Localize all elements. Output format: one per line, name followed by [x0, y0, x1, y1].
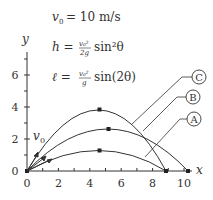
svg-text:ℓ =: ℓ = — [52, 70, 71, 84]
x-axis-label: x — [196, 163, 203, 177]
v0-label: v 0 — [33, 129, 45, 145]
trajectories — [27, 110, 188, 171]
svg-text:= 10 m/s: = 10 m/s — [66, 10, 121, 24]
svg-text:0: 0 — [24, 177, 31, 190]
trajectory-points — [25, 108, 190, 174]
label-a: A — [187, 112, 201, 126]
trajectory-b — [27, 129, 188, 171]
svg-text:8: 8 — [149, 177, 156, 190]
svg-text:sin(2θ): sin(2θ) — [94, 70, 136, 84]
svg-text:h =: h = — [52, 40, 74, 54]
trajectory-diagram: v 0 = 10 m/s h = v₀² 2g sin²θ ℓ = v₀² g … — [0, 0, 213, 200]
svg-text:10: 10 — [177, 177, 191, 190]
svg-text:0: 0 — [40, 136, 45, 145]
svg-text:4: 4 — [12, 101, 19, 114]
y-tick-labels: 0 2 4 6 — [12, 69, 19, 178]
svg-text:v: v — [52, 10, 59, 24]
arrow-head-icon — [34, 152, 38, 157]
y-axis-label: y — [21, 32, 29, 46]
svg-text:C: C — [195, 72, 203, 83]
svg-text:sin²θ: sin²θ — [94, 40, 124, 54]
leader-lines — [132, 77, 192, 157]
x-tick-labels: 0 2 4 6 8 10 — [24, 177, 192, 190]
svg-text:0: 0 — [59, 18, 63, 26]
svg-text:6: 6 — [12, 69, 19, 82]
svg-text:4: 4 — [86, 177, 93, 190]
label-b: B — [186, 90, 200, 104]
svg-text:2: 2 — [55, 177, 62, 190]
svg-text:g: g — [82, 79, 87, 87]
formula-v0: v 0 = 10 m/s — [52, 10, 121, 26]
formula-range: ℓ = v₀² g sin(2θ) — [52, 70, 136, 87]
formula-height: h = v₀² 2g sin²θ — [52, 40, 124, 57]
svg-text:6: 6 — [118, 177, 125, 190]
svg-text:B: B — [189, 92, 196, 103]
svg-text:v₀²: v₀² — [79, 40, 89, 48]
svg-text:2g: 2g — [79, 49, 89, 57]
svg-text:0: 0 — [12, 165, 19, 178]
velocity-arrows — [27, 152, 52, 171]
arrow-head-icon — [47, 159, 52, 163]
svg-text:v: v — [33, 129, 40, 143]
svg-text:A: A — [189, 114, 198, 125]
svg-text:2: 2 — [12, 133, 19, 146]
svg-text:v₀²: v₀² — [79, 70, 89, 78]
label-c: C — [192, 70, 206, 84]
